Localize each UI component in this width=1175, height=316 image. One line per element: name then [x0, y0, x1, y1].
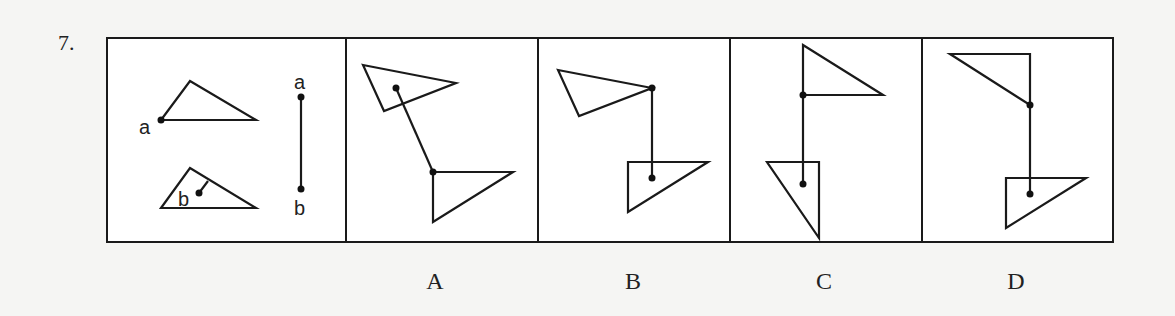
- connector-dot: [430, 169, 437, 176]
- option-label-a[interactable]: A: [426, 268, 444, 294]
- connector-dot: [649, 175, 656, 182]
- connector-dot: [1027, 191, 1034, 198]
- option-label-d[interactable]: D: [1007, 268, 1024, 294]
- connector-dot: [393, 85, 400, 92]
- connector-dot: [1027, 102, 1034, 109]
- point-a-label: a: [139, 116, 151, 138]
- connector-dot: [649, 85, 656, 92]
- point-a-dot: [158, 117, 165, 124]
- option-label-b[interactable]: B: [625, 268, 641, 294]
- point-b-dot: [196, 190, 203, 197]
- segment-a-label: a: [294, 71, 306, 93]
- puzzle-figure: 7. a b a b: [0, 0, 1175, 316]
- connector-dot: [800, 92, 807, 99]
- option-label-c[interactable]: C: [816, 268, 832, 294]
- puzzle-frame: [107, 38, 1113, 242]
- question-number: 7.: [58, 30, 75, 55]
- point-b-label: b: [178, 188, 189, 210]
- segment-b-dot: [298, 186, 305, 193]
- segment-a-dot: [298, 94, 305, 101]
- segment-b-label: b: [294, 197, 305, 219]
- connector-dot: [800, 181, 807, 188]
